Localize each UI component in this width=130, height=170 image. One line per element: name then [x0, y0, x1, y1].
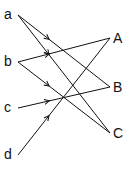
node-label-B: B [113, 79, 122, 95]
edge-a-B [18, 15, 110, 87]
node-label-C: C [113, 125, 123, 141]
mapping-diagram: abcdABC [0, 0, 130, 170]
edge-c-B [18, 87, 110, 108]
edge-b-A [18, 38, 110, 62]
node-label-b: b [4, 53, 12, 69]
node-label-A: A [113, 30, 123, 46]
edge-a-C [18, 15, 110, 133]
edge-d-A [18, 38, 110, 155]
node-label-d: d [4, 146, 12, 162]
node-label-c: c [4, 99, 11, 115]
node-label-a: a [4, 6, 12, 22]
